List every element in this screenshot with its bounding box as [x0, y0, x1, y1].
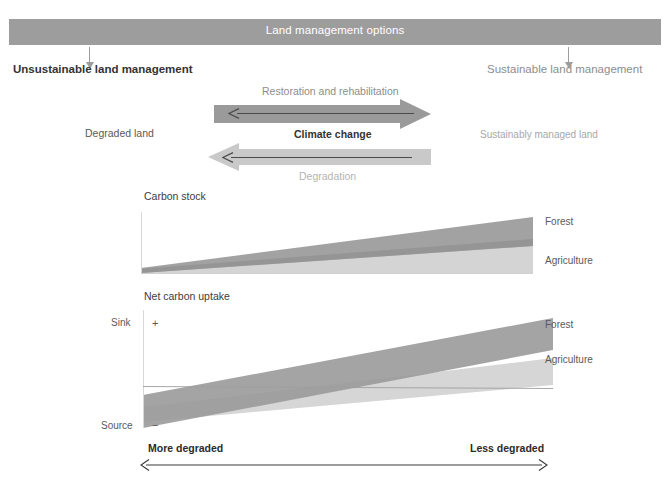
chart-title-carbon-stock: Carbon stock [144, 190, 206, 202]
label-degraded-land: Degraded land [85, 127, 154, 139]
legend-carbon-stock-agriculture: Agriculture [545, 255, 593, 266]
land-management-options-band: Land management options [9, 19, 661, 45]
diagram-canvas: Land management options Unsustainable la… [0, 0, 670, 488]
caption-restoration-and-rehabilitation: Restoration and rehabilitation [262, 85, 399, 97]
degradation-inner-arrow-left-icon [222, 152, 412, 163]
chart-title-net-carbon-uptake: Net carbon uptake [144, 290, 230, 302]
label-more-degraded: More degraded [148, 442, 223, 454]
caption-climate-change: Climate change [294, 128, 372, 140]
label-unsustainable-land-management: Unsustainable land management [13, 63, 193, 75]
legend-net-uptake-forest: Forest [545, 319, 573, 330]
caption-degradation: Degradation [299, 170, 356, 182]
degradation-gradient-axis-icon [140, 458, 548, 472]
axis-label-sink: Sink [111, 317, 130, 328]
label-less-degraded: Less degraded [470, 442, 544, 454]
chart-carbon-stock [141, 212, 533, 274]
legend-net-uptake-agriculture: Agriculture [545, 354, 593, 365]
label-sustainable-land-management: Sustainable land management [487, 63, 642, 75]
chart-net-carbon-uptake [141, 310, 553, 428]
band-label: Land management options [9, 24, 661, 36]
axis-label-source: Source [101, 420, 133, 431]
legend-carbon-stock-forest: Forest [545, 216, 573, 227]
restoration-inner-arrow-left-icon [228, 108, 414, 119]
label-sustainably-managed-land: Sustainably managed land [480, 129, 598, 140]
axis-symbol-minus: − [152, 419, 158, 431]
axis-symbol-plus: + [152, 317, 158, 329]
